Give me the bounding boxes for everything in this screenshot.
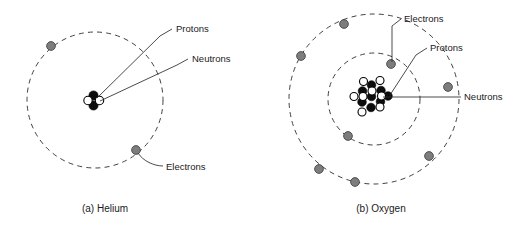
oxygen-caption: (b) Oxygen — [356, 203, 405, 214]
neutron-particle — [376, 77, 384, 85]
proton-particle — [367, 103, 376, 112]
electron-particle — [132, 146, 141, 155]
atom-diagram-figure: Protons Neutrons Electrons (a) Helium — [0, 0, 532, 238]
neutron-particle — [360, 78, 368, 86]
helium-electrons-label: Electrons — [166, 161, 206, 172]
helium-protons-label: Protons — [176, 23, 209, 34]
neutron-particle — [359, 93, 367, 101]
electron-particle — [344, 132, 353, 141]
oxygen-protons-label: Protons — [430, 42, 463, 53]
neutron-particle — [358, 108, 366, 116]
neutron-particle — [368, 87, 376, 95]
electron-particle — [425, 152, 434, 161]
electron-particle — [340, 20, 349, 29]
neutron-particle — [350, 93, 358, 101]
electron-particle — [351, 178, 360, 187]
neutron-particle — [95, 96, 103, 104]
electron-particle — [444, 83, 453, 92]
figure-background — [0, 0, 532, 238]
oxygen-electrons-label: Electrons — [404, 13, 444, 24]
neutron-particle — [378, 92, 386, 100]
electron-particle — [387, 60, 396, 69]
helium-caption: (a) Helium — [82, 203, 128, 214]
oxygen-neutrons-label: Neutrons — [464, 91, 503, 102]
neutron-particle — [376, 103, 384, 111]
electron-particle — [297, 52, 306, 61]
helium-neutrons-label: Neutrons — [192, 53, 231, 64]
electron-particle — [315, 165, 324, 174]
atom-diagram-canvas: Protons Neutrons Electrons (a) Helium — [0, 0, 532, 238]
electron-particle — [47, 42, 56, 51]
neutron-particle — [84, 96, 92, 104]
